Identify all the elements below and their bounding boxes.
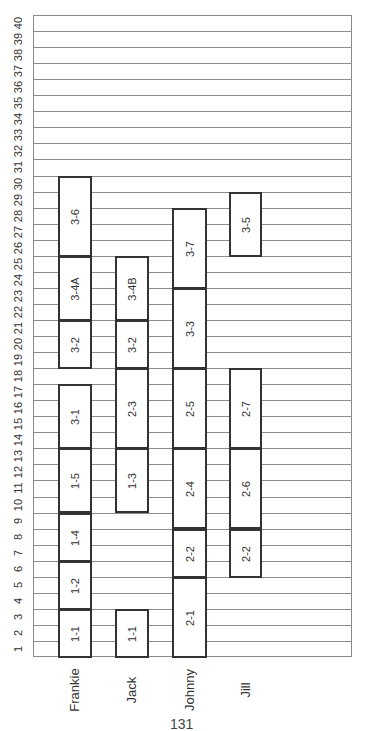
gridline: [33, 79, 352, 80]
task-label: 2-4: [184, 481, 196, 497]
task-bar: 2-7: [229, 368, 262, 449]
task-label: 3-7: [184, 241, 196, 257]
task-label: 2-5: [184, 401, 196, 417]
task-bar: 3-4A: [58, 256, 92, 321]
task-bar: 2-5: [172, 368, 207, 449]
task-label: 1-1: [69, 626, 81, 642]
gridline: [33, 47, 352, 48]
task-label: 3-5: [240, 217, 252, 233]
task-bar: 3-7: [172, 208, 207, 289]
task-bar: 1-1: [115, 609, 149, 658]
task-bar: 1-3: [115, 448, 149, 513]
task-label: 3-6: [69, 209, 81, 225]
task-label: 2-6: [240, 481, 252, 497]
task-label: 1-1: [126, 626, 138, 642]
gridline: [33, 95, 352, 96]
task-label: 3-1: [69, 409, 81, 425]
gridline: [33, 159, 352, 160]
task-label: 1-3: [126, 473, 138, 489]
task-bar: 1-2: [58, 561, 92, 610]
task-bar: 3-2: [58, 320, 92, 369]
task-label: 2-1: [184, 610, 196, 626]
gridline: [33, 31, 352, 32]
person-label: Jack: [124, 655, 140, 725]
task-label: 1-4: [69, 530, 81, 546]
person-label: Jill: [238, 655, 254, 725]
task-bar: 2-2: [172, 529, 207, 578]
person-label: Johnny: [182, 655, 198, 725]
task-bar: 3-5: [229, 192, 262, 257]
task-label: 3-2: [69, 337, 81, 353]
task-bar: 1-1: [58, 609, 92, 658]
gantt-chart: 1234567891011121314151617181920212223242…: [0, 0, 368, 731]
gridline: [33, 111, 352, 112]
task-bar: 3-3: [172, 288, 207, 369]
task-bar: 1-5: [58, 448, 92, 513]
task-bar: 2-4: [172, 448, 207, 529]
task-label: 3-4B: [126, 277, 138, 300]
task-bar: 2-1: [172, 577, 207, 658]
task-label: 1-2: [69, 578, 81, 594]
axis-tick-label: 40: [12, 13, 24, 33]
task-label: 2-7: [240, 401, 252, 417]
page-number: 131: [170, 716, 193, 731]
task-bar: 3-1: [58, 384, 92, 449]
person-label: Frankie: [67, 655, 83, 725]
gridline: [33, 143, 352, 144]
task-bar: 2-3: [115, 368, 149, 449]
gridline: [33, 63, 352, 64]
task-label: 2-2: [184, 546, 196, 562]
task-bar: 2-6: [229, 448, 262, 529]
task-label: 1-5: [69, 473, 81, 489]
task-label: 3-3: [184, 321, 196, 337]
task-label: 2-3: [126, 401, 138, 417]
task-bar: 1-4: [58, 513, 92, 562]
task-label: 3-2: [126, 337, 138, 353]
task-bar: 2-2: [229, 529, 262, 578]
task-bar: 3-6: [58, 176, 92, 257]
task-bar: 3-2: [115, 320, 149, 369]
task-bar: 3-4B: [115, 256, 149, 321]
task-label: 3-4A: [69, 277, 81, 300]
task-label: 2-2: [240, 546, 252, 562]
gridline: [33, 127, 352, 128]
